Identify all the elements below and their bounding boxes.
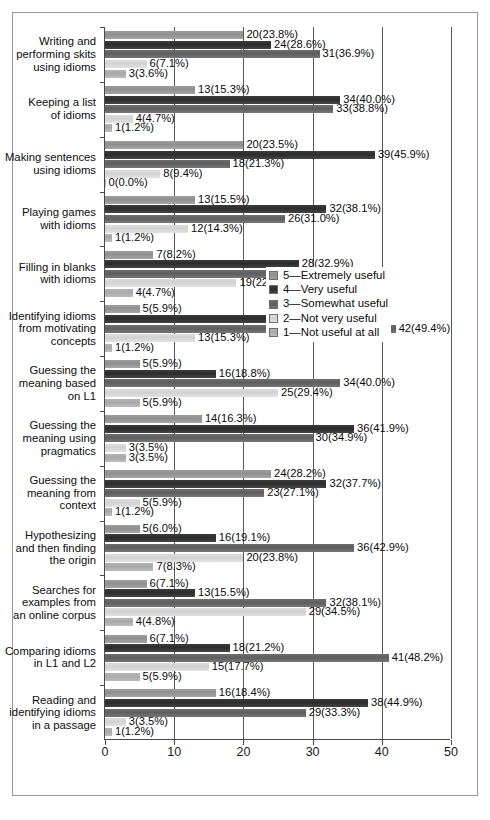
category-label: Writing andperforming skitsusing idioms [0,36,96,74]
chart-legend: 5—Extremely useful4—Very useful3—Somewha… [266,267,391,342]
legend-label: 2—Not very useful [283,313,377,324]
category-label-line: context [0,499,96,512]
bar-fill [105,196,195,204]
bar-value-label: 1(1.2%) [115,123,154,134]
category-group: Guessing themeaning usingpragmatics14(16… [105,411,450,466]
bar-1: 3(3.6%) [105,70,126,78]
bar-value-label: 3(3.5%) [129,452,168,463]
bar-5: 5(6.0%) [105,525,140,533]
category-label-line: with idioms [0,274,96,287]
bar-value-label: 7(8.2%) [156,249,195,260]
bar-value-label: 0(0.0%) [109,178,148,189]
category-group: Searches forexamples froman online corpu… [105,575,450,630]
bar-fill [105,534,216,542]
category-label-line: Hypothesizing [0,529,96,542]
plot-area: 01020304050Writing andperforming skitsus… [104,27,450,740]
bar-1: 7(8.3%) [105,563,153,571]
bar-fill [105,599,326,607]
bar-value-label: 33(38.8%) [336,104,388,115]
bar-value-label: 1(1.2%) [115,726,154,737]
bar-value-label: 20(23.5%) [246,139,298,150]
bar-value-label: 6(7.1%) [150,578,189,589]
category-label: Making sentencesusing idioms [0,152,96,177]
bar-value-label: 26(31.0%) [288,213,340,224]
category-label-line: using idioms [0,164,96,177]
y-axis-tick [100,137,105,138]
category-group: Hypothesizingand then findingthe origin5… [105,521,450,576]
bar-1: 4(4.8%) [105,618,133,626]
bar-fill [105,618,133,626]
bar-1: 1(1.2%) [105,728,112,736]
bar-value-label: 1(1.2%) [115,507,154,518]
bar-fill [105,360,140,368]
category-group: Making sentencesusing idioms20(23.5%)39(… [105,137,450,192]
bar-value-label: 5(5.9%) [143,304,182,315]
bar-5: 13(15.5%) [105,196,195,204]
bar-fill [105,454,126,462]
bar-fill [105,489,264,497]
bar-1: 0(0.0%) [105,179,106,187]
bar-fill [105,635,147,643]
category-label: Guessing themeaning fromcontext [0,474,96,512]
y-axis-tick [100,301,105,302]
bar-fill [105,508,112,516]
x-axis-tick-label: 40 [375,745,389,759]
bar-value-label: 24(28.2%) [274,468,326,479]
bar-fill [105,370,216,378]
bar-value-label: 16(19.1%) [219,533,271,544]
category-label: Keeping a listof idioms [0,97,96,122]
category-label: Hypothesizingand then findingthe origin [0,529,96,567]
bar-value-label: 16(18.4%) [219,688,271,699]
category-label-line: examples from [0,597,96,610]
bar-fill [105,399,140,407]
gridline [451,27,452,739]
bar-fill [105,124,112,132]
bar-3: 32(38.1%) [105,599,326,607]
bar-value-label: 24(28.6%) [274,39,326,50]
bar-1: 3(3.5%) [105,454,126,462]
category-group: Guessing themeaning fromcontext24(28.2%)… [105,466,450,521]
legend-item-3: 3—Somewhat useful [269,298,388,311]
bar-fill [105,689,216,697]
category-label-line: Playing games [0,206,96,219]
category-label-line: meaning based [0,377,96,390]
bar-fill [105,444,126,452]
bar-fill [105,728,112,736]
legend-label: 1—Not useful at all [283,327,379,338]
category-label-line: Guessing the [0,365,96,378]
category-label-line: in a passage [0,719,96,732]
category-label: Comparing idiomsin L1 and L2 [0,645,96,670]
bar-value-label: 16(18.8%) [219,368,271,379]
category-label-line: concepts [0,335,96,348]
legend-swatch-icon [269,314,278,323]
legend-item-1: 1—Not useful at all [269,326,388,339]
bar-value-label: 25(29.4%) [281,387,333,398]
bar-value-label: 14(16.3%) [205,414,257,425]
chart-figure: 01020304050Writing andperforming skitsus… [12,12,478,796]
bar-value-label: 5(5.9%) [143,671,182,682]
bar-fill [105,525,140,533]
bar-3: 31(36.9%) [105,50,320,58]
bar-value-label: 13(15.5%) [198,194,250,205]
bar-value-label: 4(4.8%) [136,616,175,627]
bar-value-label: 3(3.6%) [129,68,168,79]
category-label-line: an online corpus [0,609,96,622]
y-axis-tick [100,27,105,28]
bar-value-label: 29(34.5%) [309,607,361,618]
bar-value-label: 15(17.7%) [212,662,264,673]
bar-value-label: 23(27.1%) [267,488,319,499]
bar-3: 23(27.1%) [105,489,264,497]
category-label-line: on L1 [0,390,96,403]
category-group: Guessing themeaning basedon L15(5.9%)16(… [105,356,450,411]
bar-1: 5(5.9%) [105,399,140,407]
bar-fill [105,86,195,94]
bar-fill [105,315,271,323]
y-axis-tick [100,575,105,576]
category-label-line: the origin [0,554,96,567]
bar-4: 16(19.1%) [105,534,216,542]
category-label: Filling in blankswith idioms [0,261,96,286]
y-axis-tick [100,630,105,631]
category-label-line: using idioms [0,61,96,74]
bar-fill [105,389,278,397]
x-axis-tick-label: 20 [236,745,250,759]
